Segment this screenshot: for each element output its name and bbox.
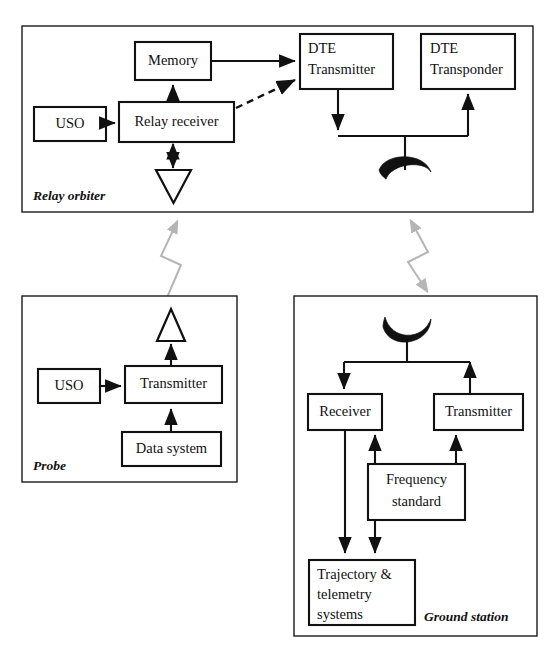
panel-ground-station-label: Ground station: [424, 609, 508, 624]
node-uso-probe-label: USO: [54, 377, 83, 393]
node-dte-transponder-label-line1: DTE: [430, 40, 458, 56]
node-ground-transmitter-label: Transmitter: [445, 403, 512, 419]
probe-to-orbiter-wave-icon: [161, 222, 181, 307]
node-uso-orbiter-label: USO: [55, 115, 84, 131]
node-ground-receiver-label: Receiver: [319, 403, 371, 419]
node-memory-label: Memory: [148, 52, 199, 68]
node-data-system-label: Data system: [136, 440, 208, 456]
panel-ground-station: Receiver Transmitter Frequency standard …: [294, 296, 537, 636]
node-trajectory-telemetry-label-line3: systems: [317, 606, 363, 622]
wave-link-orbiter-to-ground: [408, 221, 428, 291]
orbiter-to-ground-wave-icon: [408, 221, 428, 291]
panel-relay-orbiter: USO Relay receiver Memory DTE Transmitte…: [22, 26, 533, 212]
panel-relay-orbiter-label: Relay orbiter: [32, 188, 106, 203]
telecom-link-diagram: USO Relay receiver Memory DTE Transmitte…: [0, 0, 555, 651]
diagram-canvas: USO Relay receiver Memory DTE Transmitte…: [0, 0, 555, 651]
node-dte-transmitter-label-line1: DTE: [308, 40, 336, 56]
panel-probe-label: Probe: [33, 458, 66, 473]
node-trajectory-telemetry-label-line2: telemetry: [317, 586, 373, 602]
node-trajectory-telemetry-label-line1: Trajectory &: [317, 566, 392, 582]
node-frequency-standard-label-line2: standard: [392, 493, 442, 509]
wave-link-probe-to-orbiter: [161, 222, 181, 307]
node-dte-transmitter-label-line2: Transmitter: [308, 61, 375, 77]
node-probe-transmitter-label: Transmitter: [140, 375, 207, 391]
node-dte-transponder-label-line2: Transponder: [430, 61, 503, 77]
node-relay-receiver-label: Relay receiver: [134, 113, 218, 129]
node-frequency-standard-label-line1: Frequency: [386, 471, 448, 487]
panel-probe: USO Transmitter Data system Probe: [22, 296, 237, 482]
